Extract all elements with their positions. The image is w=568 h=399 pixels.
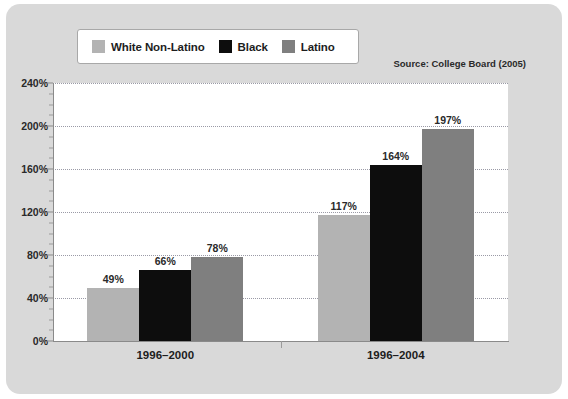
y-axis-minor-tick xyxy=(49,93,53,94)
y-axis-line xyxy=(53,83,54,342)
y-axis-tick-label: 80% xyxy=(27,249,48,261)
chart-legend: White Non-Latino Black Latino xyxy=(77,29,359,64)
y-axis-major-tick xyxy=(47,126,53,127)
y-axis-minor-tick xyxy=(49,179,53,180)
y-axis-tick-labels: 0%40%80%120%160%200%240% xyxy=(6,83,48,341)
y-axis-tick-label: 120% xyxy=(21,206,48,218)
legend-label-black: Black xyxy=(238,41,268,53)
bar-value-label: 197% xyxy=(434,114,461,126)
bar-black-1996-2000 xyxy=(139,270,191,341)
figure-card: White Non-Latino Black Latino Source: Co… xyxy=(6,4,562,394)
y-axis-minor-tick xyxy=(49,233,53,234)
y-axis-minor-tick xyxy=(49,222,53,223)
y-axis-minor-tick xyxy=(49,115,53,116)
y-axis-minor-tick xyxy=(49,330,53,331)
bar-white-non-latino-1996-2000 xyxy=(87,288,139,341)
x-axis-group-label: 1996–2004 xyxy=(367,349,425,361)
bar-latino-1996-2004 xyxy=(422,129,474,341)
legend-item-latino: Latino xyxy=(282,40,335,53)
bar-black-1996-2004 xyxy=(370,165,422,341)
legend-swatch-latino xyxy=(282,40,295,53)
y-axis-minor-tick xyxy=(49,287,53,288)
bar-value-label: 78% xyxy=(207,242,228,254)
y-axis-minor-tick xyxy=(49,319,53,320)
x-axis-group-separator-tick xyxy=(281,341,282,348)
y-axis-minor-tick xyxy=(49,190,53,191)
plot-frame: 49%66%78%117%164%197% xyxy=(53,83,508,341)
y-axis-tick-label: 160% xyxy=(21,163,48,175)
y-axis-minor-tick xyxy=(49,308,53,309)
bar-value-label: 117% xyxy=(331,200,357,212)
gridline xyxy=(53,83,508,84)
legend-swatch-white-non-latino xyxy=(92,40,105,53)
y-axis-minor-tick xyxy=(49,201,53,202)
y-axis-minor-tick xyxy=(49,104,53,105)
bar-white-non-latino-1996-2004 xyxy=(318,215,370,341)
bar-value-label: 164% xyxy=(382,150,409,162)
y-axis-minor-tick xyxy=(49,136,53,137)
legend-label-latino: Latino xyxy=(301,41,335,53)
legend-item-white-non-latino: White Non-Latino xyxy=(92,40,205,53)
y-axis-tick-label: 200% xyxy=(21,120,48,132)
bar-latino-1996-2000 xyxy=(191,257,243,341)
bar-value-label: 49% xyxy=(103,273,124,285)
y-axis-major-tick xyxy=(47,83,53,84)
legend-item-black: Black xyxy=(219,40,268,53)
y-axis-minor-tick xyxy=(49,158,53,159)
y-axis-major-tick xyxy=(47,341,53,342)
legend-swatch-black xyxy=(219,40,232,53)
y-axis-minor-tick xyxy=(49,276,53,277)
y-axis-major-tick xyxy=(47,169,53,170)
y-axis-major-tick xyxy=(47,298,53,299)
y-axis-tick-label: 40% xyxy=(27,292,48,304)
y-axis-minor-tick xyxy=(49,244,53,245)
y-axis-major-tick xyxy=(47,212,53,213)
plot-area: 49%66%78%117%164%197% xyxy=(53,83,508,341)
y-axis-tick-label: 0% xyxy=(33,335,48,347)
legend-label-white-non-latino: White Non-Latino xyxy=(111,41,205,53)
y-axis-minor-tick xyxy=(49,147,53,148)
y-axis-tick-label: 240% xyxy=(21,77,48,89)
bar-value-label: 66% xyxy=(155,255,176,267)
y-axis-minor-tick xyxy=(49,265,53,266)
x-axis-group-label: 1996–2000 xyxy=(136,349,194,361)
y-axis-major-tick xyxy=(47,255,53,256)
source-note: Source: College Board (2005) xyxy=(393,58,526,69)
